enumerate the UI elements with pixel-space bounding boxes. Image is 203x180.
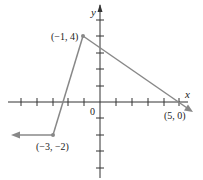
graph-canvas: y x 0 (−1, 4) (5, 0) (−3, −2) [0,0,203,180]
origin-label: 0 [90,106,95,117]
point-label-neg3-neg2: (−3, −2) [36,141,69,153]
point-neg1-4 [81,34,85,38]
point-neg3-neg2 [51,133,55,137]
x-axis-label: x [184,88,190,100]
y-axis-arrow-icon [98,4,103,12]
point-label-5-0: (5, 0) [164,110,186,122]
left-arrow-icon [11,132,20,139]
y-axis-label: y [90,6,96,18]
point-label-neg1-4: (−1, 4) [51,31,78,43]
